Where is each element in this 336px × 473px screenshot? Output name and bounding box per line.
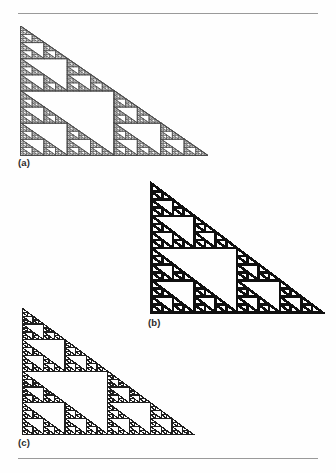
fractal-panel-b	[149, 181, 325, 315]
fractal-panel-a	[20, 26, 208, 156]
top-rule	[18, 13, 318, 14]
caption-c: (c)	[18, 437, 30, 448]
caption-a: (a)	[18, 157, 30, 168]
fractal-panel-c	[21, 307, 195, 436]
bottom-rule	[18, 458, 318, 459]
figure-page: (a) (b) (c)	[0, 0, 336, 473]
